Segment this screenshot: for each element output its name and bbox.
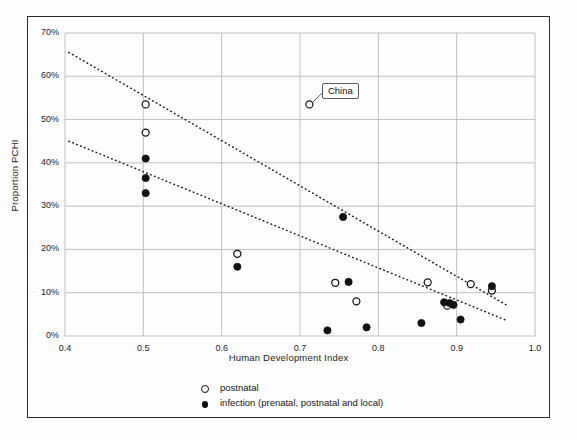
filled-circle-icon — [196, 394, 214, 412]
data-point-infection — [450, 301, 457, 308]
legend-label-postnatal: postnatal — [214, 382, 259, 393]
x-tick-label: 0.7 — [280, 343, 320, 353]
y-tick-label: 60% — [25, 70, 59, 80]
scatter-chart-figure: Proportion PCHI Human Development Index … — [0, 0, 577, 440]
y-tick-label: 0% — [25, 330, 59, 340]
data-point-infection — [234, 263, 241, 270]
data-point-infection — [339, 213, 346, 220]
data-point-postnatal — [353, 298, 360, 305]
china-annotation-label: China — [322, 83, 359, 99]
data-point-infection — [345, 278, 352, 285]
legend-item-infection: infection (prenatal, postnatal and local… — [196, 395, 383, 410]
x-tick-label: 0.9 — [437, 343, 477, 353]
data-point-postnatal — [332, 279, 339, 286]
data-point-postnatal — [142, 101, 149, 108]
data-point-infection — [488, 283, 495, 290]
x-tick-label: 0.8 — [358, 343, 398, 353]
x-tick-label: 0.5 — [123, 343, 163, 353]
y-tick-label: 10% — [25, 287, 59, 297]
data-point-infection — [363, 324, 370, 331]
data-point-postnatal — [234, 250, 241, 257]
y-tick-label: 70% — [25, 27, 59, 37]
data-point-infection — [142, 174, 149, 181]
data-point-postnatal — [306, 101, 313, 108]
data-point-infection — [142, 190, 149, 197]
data-point-postnatal — [424, 279, 431, 286]
data-point-infection — [418, 319, 425, 326]
legend-item-postnatal: postnatal — [196, 380, 383, 395]
y-tick-label: 50% — [25, 114, 59, 124]
legend-label-infection: infection (prenatal, postnatal and local… — [214, 397, 383, 408]
trendline-lower-trend — [69, 141, 508, 321]
x-tick-label: 0.4 — [45, 343, 85, 353]
trendline-upper-trend — [69, 52, 508, 305]
data-point-infection — [324, 327, 331, 334]
x-tick-label: 0.6 — [202, 343, 242, 353]
y-tick-label: 40% — [25, 157, 59, 167]
data-point-postnatal — [467, 281, 474, 288]
data-point-infection — [457, 316, 464, 323]
x-tick-label: 1.0 — [515, 343, 555, 353]
data-point-infection — [142, 155, 149, 162]
y-tick-label: 20% — [25, 243, 59, 253]
chart-legend: postnatal infection (prenatal, postnatal… — [196, 380, 383, 410]
data-point-postnatal — [142, 129, 149, 136]
plot-area — [0, 0, 577, 440]
y-tick-label: 30% — [25, 200, 59, 210]
plot-svg — [0, 0, 577, 440]
